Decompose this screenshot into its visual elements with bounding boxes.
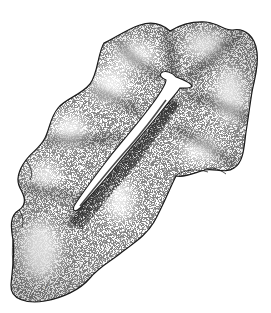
flatworm-drawing <box>0 0 271 313</box>
illustration: • • • <box>0 0 271 313</box>
body-stipple <box>0 0 271 313</box>
